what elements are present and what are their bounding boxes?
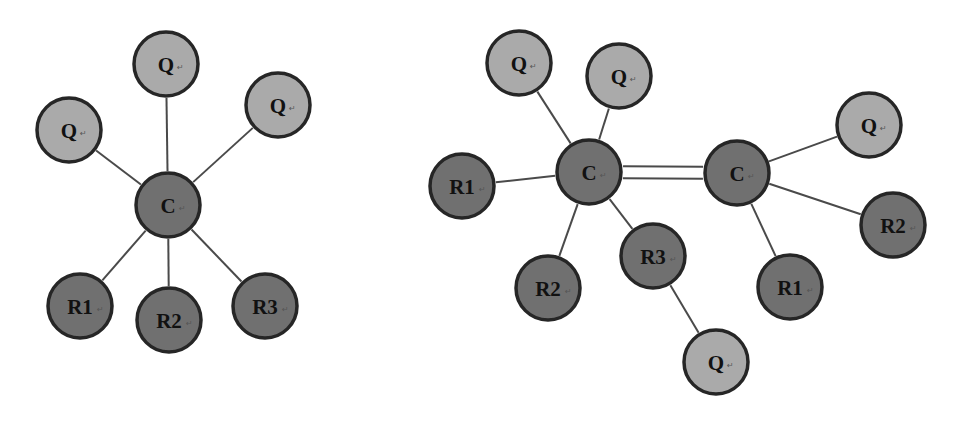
return-mark-icon: ↵	[97, 305, 104, 314]
return-mark-icon: ↵	[630, 75, 637, 84]
node-q: Q↵	[246, 73, 310, 137]
node-r2: R2↵	[516, 256, 580, 320]
node-label: Q	[270, 94, 286, 118]
node-label: R3	[640, 245, 666, 269]
node-label: Q	[511, 52, 527, 76]
node-label: C	[581, 161, 596, 185]
return-mark-icon: ↵	[530, 62, 537, 71]
bond-line	[610, 199, 633, 229]
bond-line	[599, 108, 609, 139]
bond-line	[751, 204, 775, 256]
node-label: R1	[449, 175, 475, 199]
node-c: C↵	[705, 141, 769, 205]
bond-line	[769, 184, 860, 214]
node-q: Q↵	[587, 44, 651, 108]
bond-line	[496, 176, 555, 183]
right-nodes: C↵C↵Q↵Q↵R1↵R2↵R3↵Q↵Q↵R2↵R1↵	[430, 31, 925, 394]
node-r2: R2↵	[861, 193, 925, 257]
bond-line	[102, 231, 145, 281]
bond-line	[769, 137, 837, 162]
return-mark-icon: ↵	[289, 104, 296, 113]
node-label: Q	[158, 53, 174, 77]
return-mark-icon: ↵	[282, 305, 289, 314]
node-label: R3	[252, 295, 278, 319]
node-label: R1	[67, 295, 93, 319]
node-q: Q↵	[487, 31, 551, 95]
node-r3: R3↵	[621, 224, 685, 288]
node-c: C↵	[136, 173, 200, 237]
node-label: Q	[61, 119, 77, 143]
return-mark-icon: ↵	[479, 185, 486, 194]
bond-line	[96, 151, 141, 185]
node-label: C	[160, 194, 175, 218]
return-mark-icon: ↵	[807, 286, 814, 295]
double-bond-line	[623, 178, 703, 179]
bond-line	[559, 204, 577, 256]
node-label: Q	[611, 65, 627, 89]
node-label: Q	[861, 114, 877, 138]
return-mark-icon: ↵	[186, 319, 193, 328]
node-q: Q↵	[37, 98, 101, 162]
node-label: R2	[880, 214, 906, 238]
node-q: Q↵	[837, 93, 901, 157]
node-label: Q	[708, 351, 724, 375]
return-mark-icon: ↵	[880, 124, 887, 133]
return-mark-icon: ↵	[80, 129, 87, 138]
node-label: R2	[535, 277, 561, 301]
double-bond-line	[623, 166, 703, 167]
return-mark-icon: ↵	[565, 287, 572, 296]
node-r2: R2↵	[137, 288, 201, 352]
node-q: Q↵	[134, 32, 198, 96]
bond-line	[537, 92, 570, 144]
bond-line	[192, 230, 242, 282]
return-mark-icon: ↵	[727, 361, 734, 370]
node-label: R1	[777, 276, 803, 300]
right-molecule-diagram: C↵C↵Q↵Q↵R1↵R2↵R3↵Q↵Q↵R2↵R1↵	[430, 31, 925, 394]
node-label: R2	[156, 309, 182, 333]
node-label: C	[729, 162, 744, 186]
return-mark-icon: ↵	[600, 171, 607, 180]
node-r1: R1↵	[430, 154, 494, 218]
node-c: C↵	[557, 140, 621, 204]
return-mark-icon: ↵	[748, 172, 755, 181]
left-molecule-diagram: C↵Q↵Q↵Q↵R1↵R2↵R3↵	[37, 32, 310, 352]
return-mark-icon: ↵	[179, 204, 186, 213]
bond-line	[193, 128, 253, 182]
return-mark-icon: ↵	[910, 224, 917, 233]
diagram-canvas: C↵Q↵Q↵Q↵R1↵R2↵R3↵ C↵C↵Q↵Q↵R1↵R2↵R3↵Q↵Q↵R…	[0, 0, 957, 421]
return-mark-icon: ↵	[177, 63, 184, 72]
node-q: Q↵	[684, 330, 748, 394]
left-nodes: C↵Q↵Q↵Q↵R1↵R2↵R3↵	[37, 32, 310, 352]
bond-line	[166, 98, 167, 171]
node-r1: R1↵	[758, 255, 822, 319]
node-r3: R3↵	[233, 274, 297, 338]
bond-line	[670, 285, 698, 333]
node-r1: R1↵	[48, 274, 112, 338]
return-mark-icon: ↵	[670, 255, 677, 264]
